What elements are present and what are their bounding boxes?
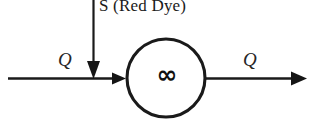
source-label: S (Red Dye) [99, 0, 186, 14]
source-arrowhead-icon [87, 61, 100, 79]
inlet-arrowhead-icon [112, 73, 126, 85]
inflow-rate-label: Q [58, 50, 72, 69]
outflow-rate-label: Q [243, 50, 257, 69]
infinity-symbol-icon: ∞ [150, 62, 184, 87]
outlet-arrowhead-icon [291, 72, 307, 86]
flow-diagram-canvas: S (Red Dye) Q Q ∞ [0, 0, 310, 124]
